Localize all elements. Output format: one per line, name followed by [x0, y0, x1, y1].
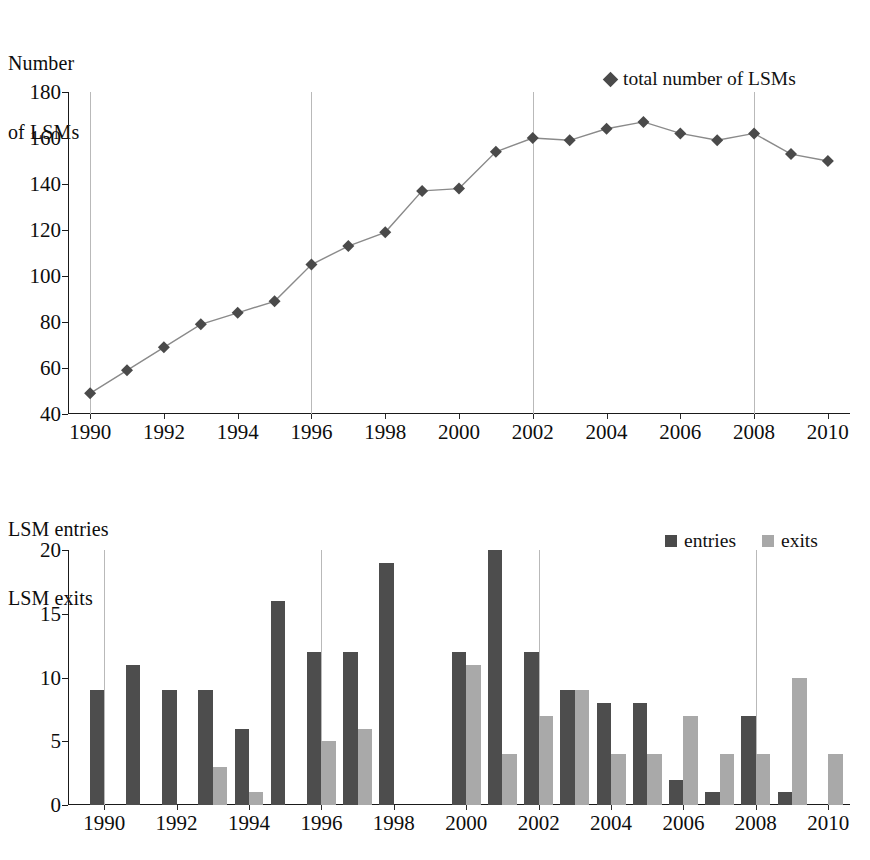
x-tick-label: 2000 [445, 811, 487, 836]
diamond-marker-icon [603, 71, 619, 87]
x-tick-mark [459, 414, 460, 419]
y-tick-label: 0 [51, 793, 62, 818]
x-tick-mark [756, 805, 757, 810]
x-tick-label: 1994 [228, 811, 270, 836]
x-tick-mark [539, 805, 540, 810]
x-tick-mark [683, 805, 684, 810]
y-tick-label: 20 [40, 538, 61, 563]
y-tick-label: 15 [40, 601, 61, 626]
x-tick-mark [466, 805, 467, 810]
x-tick-label: 1998 [373, 811, 415, 836]
x-tick-mark [321, 805, 322, 810]
x-tick-mark [533, 414, 534, 419]
bar-exits-2008 [756, 754, 770, 805]
bar-entries-2007 [705, 792, 719, 805]
bar-exits-2005 [647, 754, 661, 805]
line-path [90, 122, 828, 393]
bar-chart-bars [68, 550, 850, 805]
data-point-marker [822, 155, 834, 167]
x-tick-label: 1996 [300, 811, 342, 836]
x-tick-label: 2010 [807, 811, 849, 836]
data-point-marker [342, 240, 354, 252]
legend-label-exits: exits [781, 530, 818, 552]
x-tick-label: 1994 [217, 420, 259, 445]
x-tick-mark [754, 414, 755, 419]
y-tick-label: 180 [30, 80, 62, 105]
bar-exits-1996 [321, 741, 335, 805]
bar-entries-1998 [379, 563, 393, 805]
x-tick-label: 2000 [438, 420, 480, 445]
y-tick-label: 5 [51, 729, 62, 754]
y-tick-mark [62, 414, 68, 415]
x-tick-label: 1996 [290, 420, 332, 445]
bar-entries-2005 [633, 703, 647, 805]
bar-entries-2009 [778, 792, 792, 805]
y-tick-label: 100 [30, 264, 62, 289]
bar-exits-2001 [502, 754, 516, 805]
data-point-marker [527, 132, 539, 144]
bar-entries-1997 [343, 652, 357, 805]
x-tick-label: 1992 [156, 811, 198, 836]
line-chart-axis-title-line1: Number [8, 52, 79, 75]
line-chart-legend: total number of LSMs [605, 68, 796, 90]
data-point-marker [195, 318, 207, 330]
y-tick-label: 60 [40, 356, 61, 381]
legend-item-entries: entries [665, 530, 736, 552]
bar-chart-legend: entries exits [665, 530, 818, 552]
bar-entries-1995 [271, 601, 285, 805]
legend-item-exits: exits [762, 530, 818, 552]
x-tick-label: 2004 [590, 811, 632, 836]
y-tick-label: 80 [40, 310, 61, 335]
data-point-marker [674, 127, 686, 139]
x-tick-mark [104, 805, 105, 810]
legend-label-total-number-of-lsms: total number of LSMs [623, 68, 796, 90]
legend-item-total-number-of-lsms: total number of LSMs [605, 68, 796, 90]
bar-exits-2006 [683, 716, 697, 805]
x-tick-label: 2002 [518, 811, 560, 836]
data-point-marker [232, 307, 244, 319]
x-tick-mark [238, 414, 239, 419]
x-tick-mark [385, 414, 386, 419]
bar-exits-1994 [249, 792, 263, 805]
bar-entries-2004 [597, 703, 611, 805]
x-tick-mark [394, 805, 395, 810]
bar-exits-1993 [213, 767, 227, 805]
bar-exits-2000 [466, 665, 480, 805]
data-point-marker [637, 116, 649, 128]
data-point-marker [711, 134, 723, 146]
data-point-marker [158, 341, 170, 353]
bar-exits-1997 [358, 729, 372, 806]
bar-exits-2002 [539, 716, 553, 805]
x-tick-label: 1990 [83, 811, 125, 836]
x-tick-label: 2006 [659, 420, 701, 445]
x-tick-label: 1998 [364, 420, 406, 445]
y-tick-mark [62, 805, 68, 806]
line-chart-plot-area: 406080100120140160180 199019921994199619… [68, 92, 850, 414]
x-tick-mark [249, 805, 250, 810]
bar-entries-2003 [560, 690, 574, 805]
x-tick-mark [311, 414, 312, 419]
bar-entries-1994 [235, 729, 249, 806]
x-tick-mark [607, 414, 608, 419]
bar-entries-2008 [741, 716, 755, 805]
y-tick-label: 120 [30, 218, 62, 243]
bar-chart-plot-area: 05101520 1990199219941996199820002002200… [68, 550, 850, 805]
bar-chart-panel: LSM entries LSM exits entries exits 0510… [0, 450, 870, 860]
bar-entries-1990 [90, 690, 104, 805]
line-chart-series-total-number-of-lsms [68, 92, 850, 414]
bar-entries-1992 [162, 690, 176, 805]
data-point-marker [121, 364, 133, 376]
x-tick-mark [828, 414, 829, 419]
data-point-marker [564, 134, 576, 146]
bar-entries-2002 [524, 652, 538, 805]
bar-entries-1993 [198, 690, 212, 805]
line-chart-panel: Number of LSMs total number of LSMs 4060… [0, 0, 870, 450]
bar-entries-2001 [488, 550, 502, 805]
exits-swatch-icon [762, 535, 774, 547]
x-tick-label: 2006 [662, 811, 704, 836]
entries-swatch-icon [665, 535, 677, 547]
bar-exits-2004 [611, 754, 625, 805]
data-point-marker [601, 123, 613, 135]
x-tick-label: 1990 [69, 420, 111, 445]
y-tick-label: 140 [30, 172, 62, 197]
